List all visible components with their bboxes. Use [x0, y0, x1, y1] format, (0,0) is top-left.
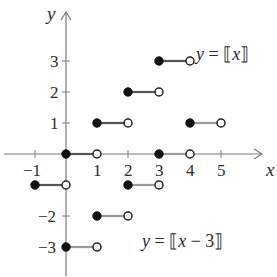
equation-label-floor-x-minus-3: y = ⟦x − 3⟧: [140, 231, 223, 251]
open-endpoint-icon: [217, 119, 225, 127]
closed-endpoint-icon: [155, 150, 163, 158]
y-tick-label: 3: [50, 52, 59, 71]
x-tick-label: 4: [186, 161, 195, 180]
y-tick-label: 1: [50, 114, 59, 133]
open-endpoint-icon: [124, 119, 132, 127]
x-tick-label: −1: [23, 161, 41, 180]
open-endpoint-icon: [155, 181, 163, 189]
open-endpoint-icon: [155, 88, 163, 96]
x-tick-label: 3: [155, 161, 164, 180]
open-endpoint-icon: [186, 150, 194, 158]
y-tick-label: −3: [38, 238, 56, 257]
open-endpoint-icon: [93, 150, 101, 158]
closed-endpoint-icon: [186, 119, 194, 127]
x-tick-label: 2: [124, 161, 133, 180]
open-endpoint-icon: [186, 57, 194, 65]
closed-endpoint-icon: [62, 150, 70, 158]
closed-endpoint-icon: [31, 181, 39, 189]
closed-endpoint-icon: [155, 57, 163, 65]
y-axis-label: y: [45, 3, 56, 24]
x-tick-label: 5: [217, 161, 226, 180]
closed-endpoint-icon: [124, 88, 132, 96]
open-endpoint-icon: [93, 243, 101, 251]
x-axis-label: x: [265, 159, 275, 180]
x-tick-label: 1: [93, 161, 102, 180]
closed-endpoint-icon: [62, 243, 70, 251]
closed-endpoint-icon: [93, 212, 101, 220]
closed-endpoint-icon: [93, 119, 101, 127]
y-tick-label: 2: [50, 83, 59, 102]
open-endpoint-icon: [62, 181, 70, 189]
step-function-chart: −112345321−2−3 x y y = ⟦x⟧ y = ⟦x − 3⟧: [0, 0, 277, 277]
closed-endpoint-icon: [124, 181, 132, 189]
equation-label-floor-x: y = ⟦x⟧: [194, 44, 249, 64]
y-tick-label: −2: [38, 207, 56, 226]
open-endpoint-icon: [124, 212, 132, 220]
